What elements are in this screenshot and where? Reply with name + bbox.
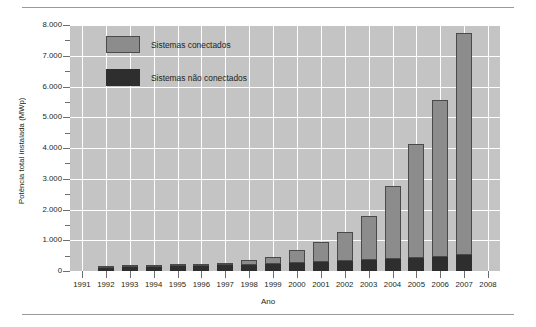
y-axis-tick-label: 5.000: [16, 113, 62, 121]
top-divider-rule: [22, 7, 514, 8]
y-axis-minor-tick: [65, 256, 70, 257]
gridline-vertical: [178, 25, 179, 271]
bar-1999: [265, 257, 281, 271]
y-axis-tick: [63, 179, 70, 180]
gridline-vertical: [82, 25, 83, 271]
y-axis-minor-tick: [65, 102, 70, 103]
y-axis-minor-tick: [65, 40, 70, 41]
gridline-vertical: [225, 25, 226, 271]
gridline-vertical: [297, 25, 298, 271]
x-axis-tick: [82, 271, 83, 278]
y-axis-tick-label: 8.000: [16, 21, 62, 29]
bar-2002: [337, 232, 353, 271]
x-axis-tick: [464, 271, 465, 278]
x-axis-tick-label: 2008: [468, 281, 508, 289]
x-axis-tick: [249, 271, 250, 278]
legend-swatch-not-connected: [106, 69, 140, 86]
x-axis-title: Ano: [0, 297, 536, 306]
gridline-vertical: [321, 25, 322, 271]
gridline-vertical: [106, 25, 107, 271]
bar-segment-not-connected: [265, 264, 281, 271]
y-axis-tick: [63, 87, 70, 88]
gridline-vertical: [273, 25, 274, 271]
gridline-horizontal: [70, 87, 500, 88]
gridline-vertical: [130, 25, 131, 271]
x-axis-tick: [273, 271, 274, 278]
y-axis-tick: [63, 240, 70, 241]
x-axis-tick: [440, 271, 441, 278]
y-axis-tick: [63, 148, 70, 149]
y-axis-tick-label: 1.000: [16, 236, 62, 244]
gridline-vertical: [201, 25, 202, 271]
gridline-vertical: [488, 25, 489, 271]
y-axis-tick-label: 3.000: [16, 175, 62, 183]
bar-2005: [408, 144, 424, 271]
x-axis-tick: [154, 271, 155, 278]
y-axis-tick: [63, 210, 70, 211]
bar-segment-connected: [408, 144, 424, 258]
bar-2006: [432, 100, 448, 271]
bar-2003: [361, 216, 377, 271]
y-axis-minor-tick: [65, 225, 70, 226]
bar-segment-not-connected: [408, 258, 424, 271]
bottom-divider-rule: [22, 314, 514, 315]
bar-segment-not-connected: [289, 263, 305, 271]
plot-area: [70, 25, 500, 271]
y-axis-minor-tick: [65, 194, 70, 195]
bar-segment-connected: [289, 250, 305, 263]
y-axis-minor-tick: [65, 71, 70, 72]
bar-segment-connected: [337, 232, 353, 261]
bar-segment-connected: [456, 33, 472, 255]
gridline-horizontal: [70, 25, 500, 26]
x-axis-tick: [369, 271, 370, 278]
y-axis-tick-label: 4.000: [16, 144, 62, 152]
bar-segment-connected: [432, 100, 448, 256]
bar-1997: [217, 263, 233, 271]
y-axis-tick-label: 6.000: [16, 83, 62, 91]
x-axis-tick: [321, 271, 322, 278]
x-axis-tick: [178, 271, 179, 278]
y-axis-tick-label: 0: [16, 267, 62, 275]
x-axis-tick: [297, 271, 298, 278]
x-axis-tick: [106, 271, 107, 278]
x-axis-tick: [345, 271, 346, 278]
bar-segment-not-connected: [361, 260, 377, 271]
gridline-vertical: [249, 25, 250, 271]
gridline-vertical: [154, 25, 155, 271]
x-axis-tick: [393, 271, 394, 278]
bar-segment-not-connected: [432, 257, 448, 271]
bar-segment-connected: [313, 242, 329, 262]
legend-item-not-connected: Sistemas não conectados: [106, 69, 247, 86]
bar-2001: [313, 242, 329, 271]
bar-1996: [193, 264, 209, 271]
gridline-horizontal: [70, 56, 500, 57]
legend-label-connected: Sistemas conectados: [151, 40, 231, 50]
y-axis-tick: [63, 56, 70, 57]
y-axis-tick-label: 7.000: [16, 52, 62, 60]
legend-swatch-connected: [106, 36, 140, 53]
chart-figure: Potência total instalada (MWp) 01.0002.0…: [0, 0, 536, 327]
x-axis-tick: [201, 271, 202, 278]
bar-segment-not-connected: [385, 259, 401, 271]
x-axis-tick: [130, 271, 131, 278]
x-axis-tick: [416, 271, 417, 278]
bar-2000: [289, 250, 305, 271]
y-axis-tick: [63, 117, 70, 118]
x-axis-tick: [488, 271, 489, 278]
y-axis-tick: [63, 25, 70, 26]
bar-segment-not-connected: [456, 255, 472, 271]
x-axis-tick: [225, 271, 226, 278]
bar-segment-not-connected: [337, 261, 353, 271]
bar-segment-connected: [385, 186, 401, 259]
y-axis-tick: [63, 271, 70, 272]
y-axis-tick-label: 2.000: [16, 206, 62, 214]
bar-2007: [456, 33, 472, 271]
y-axis-minor-tick: [65, 133, 70, 134]
bar-segment-not-connected: [313, 262, 329, 271]
y-axis-minor-tick: [65, 163, 70, 164]
bar-segment-connected: [265, 257, 281, 264]
bar-2004: [385, 186, 401, 271]
legend-label-not-connected: Sistemas não conectados: [151, 73, 247, 83]
bar-1998: [241, 260, 257, 271]
bar-segment-connected: [361, 216, 377, 260]
